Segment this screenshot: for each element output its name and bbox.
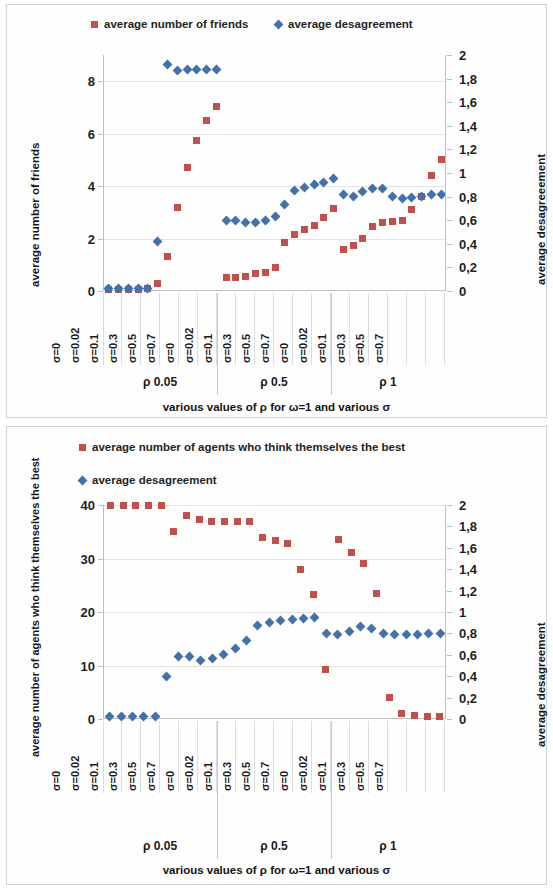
- data-point-series-red: [196, 516, 203, 523]
- data-point-series-red: [408, 206, 415, 213]
- data-point-series-blue: [270, 212, 280, 222]
- legend-item-desagreement: average desagreement: [79, 474, 217, 486]
- data-point-series-blue: [207, 653, 217, 663]
- y-tick-mark: [98, 291, 103, 292]
- data-point-series-red: [379, 219, 386, 226]
- data-point-series-red: [424, 713, 431, 720]
- y-tick-label: 8: [57, 74, 95, 89]
- data-point-series-blue: [321, 628, 331, 638]
- data-point-series-blue: [348, 192, 358, 202]
- data-point-series-red: [398, 710, 405, 717]
- data-point-series-blue: [185, 652, 195, 662]
- y2-tick-label: 0,2: [459, 260, 477, 275]
- chart1-plot-area: [103, 55, 445, 291]
- y-tick-label: 0: [57, 712, 95, 727]
- data-point-series-blue: [230, 643, 240, 653]
- data-point-series-blue: [368, 183, 378, 193]
- data-point-series-red: [223, 274, 230, 281]
- legend-item-desagreement: average desagreement: [275, 18, 413, 30]
- x-tick-cell-border: [103, 721, 104, 793]
- group-label: ρ 0.5: [260, 375, 287, 389]
- data-point-series-blue: [287, 615, 297, 625]
- data-point-series-blue: [276, 616, 286, 626]
- y-tick-mark: [98, 719, 103, 720]
- data-point-series-red: [301, 226, 308, 233]
- y2-tick-mark: [447, 244, 452, 245]
- data-point-series-red: [242, 273, 249, 280]
- data-point-series-red: [262, 269, 269, 276]
- data-point-series-red: [330, 205, 337, 212]
- legend-square-marker-icon: [91, 21, 98, 28]
- y2-tick-mark: [447, 569, 452, 570]
- data-point-series-red: [259, 534, 266, 541]
- y-tick-label: 30: [57, 551, 95, 566]
- data-point-series-blue: [260, 215, 270, 225]
- data-point-series-red: [438, 156, 445, 163]
- data-point-series-red: [428, 172, 435, 179]
- data-point-series-red: [436, 713, 443, 720]
- data-point-series-blue: [329, 174, 339, 184]
- gridline: [104, 559, 445, 560]
- legend-label: average desagreement: [288, 18, 413, 30]
- data-point-series-red: [246, 518, 253, 525]
- y2-tick-label: 0,2: [459, 690, 477, 705]
- data-point-series-red: [297, 566, 304, 573]
- x-tick-label: σ=0.7: [373, 334, 441, 363]
- y2-tick-label: 1,8: [459, 519, 477, 534]
- y-tick-label: 0: [57, 284, 95, 299]
- data-point-series-blue: [242, 636, 252, 646]
- data-point-series-red: [145, 502, 152, 509]
- legend-diamond-marker-icon: [78, 475, 88, 485]
- data-point-series-blue: [241, 218, 251, 228]
- chart-card-best-agents: average number of agents who think thems…: [6, 426, 547, 885]
- y2-tick-mark: [447, 633, 452, 634]
- y2-tick-mark: [447, 149, 452, 150]
- data-point-series-red: [311, 222, 318, 229]
- data-point-series-red: [120, 502, 127, 509]
- data-point-series-blue: [172, 65, 182, 75]
- y2-tick-mark: [447, 676, 452, 677]
- legend-label: average number of agents who think thems…: [92, 441, 405, 453]
- gridline: [104, 505, 445, 506]
- y2-tick-mark: [447, 505, 452, 506]
- data-point-series-red: [232, 274, 239, 281]
- data-point-series-red: [359, 235, 366, 242]
- x-tick-cell-border: [103, 293, 104, 365]
- data-point-series-red: [386, 694, 393, 701]
- y2-tick-mark: [447, 719, 452, 720]
- data-point-series-blue: [196, 655, 206, 665]
- data-point-series-red: [310, 591, 317, 598]
- data-point-series-red: [335, 536, 342, 543]
- y-tick-label: 4: [57, 179, 95, 194]
- y2-tick-label: 0,6: [459, 213, 477, 228]
- data-point-series-blue: [219, 650, 229, 660]
- data-point-series-red: [389, 218, 396, 225]
- y2-tick-mark: [447, 79, 452, 80]
- y-tick-mark: [98, 81, 103, 82]
- y-tick-mark: [98, 505, 103, 506]
- y2-tick-label: 0,6: [459, 647, 477, 662]
- gridline: [104, 134, 445, 135]
- data-point-series-red: [373, 590, 380, 597]
- y2-tick-label: 0: [459, 712, 466, 727]
- y2-tick-mark: [447, 612, 452, 613]
- chart1-y-axis-title: average number of friends: [29, 143, 41, 287]
- y2-tick-label: 1,4: [459, 118, 477, 133]
- data-point-series-blue: [290, 186, 300, 196]
- y-tick-mark: [98, 559, 103, 560]
- data-point-series-blue: [356, 622, 366, 632]
- data-point-series-red: [164, 253, 171, 260]
- data-point-series-blue: [424, 628, 434, 638]
- y2-tick-label: 1,2: [459, 583, 477, 598]
- group-label: ρ 0.05: [143, 375, 177, 389]
- y2-tick-mark: [447, 197, 452, 198]
- data-point-series-blue: [426, 189, 436, 199]
- data-point-series-red: [174, 204, 181, 211]
- data-point-series-red: [281, 239, 288, 246]
- data-point-series-blue: [309, 180, 319, 190]
- data-point-series-red: [252, 270, 259, 277]
- data-point-series-red: [184, 164, 191, 171]
- data-point-series-red: [411, 712, 418, 719]
- data-point-series-red: [234, 518, 241, 525]
- data-point-series-blue: [390, 630, 400, 640]
